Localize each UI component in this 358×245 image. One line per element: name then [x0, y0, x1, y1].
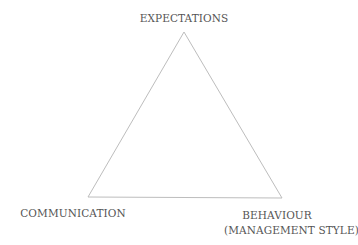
triangle-shape: [88, 32, 282, 198]
label-expectations: EXPECTATIONS: [138, 12, 230, 24]
label-management-style: (MANAGEMENT STYLE): [224, 224, 336, 236]
label-communication: COMMUNICATION: [18, 207, 128, 219]
label-behaviour: BEHAVIOUR: [240, 209, 314, 221]
